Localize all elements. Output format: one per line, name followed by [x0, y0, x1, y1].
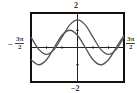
- x-max-label: 3π 2: [126, 36, 135, 51]
- x-min-sign: −: [8, 41, 13, 49]
- x-min-denominator: 2: [15, 44, 24, 51]
- y-max-label: 2: [74, 2, 78, 10]
- y-min-label: −2: [71, 85, 80, 93]
- x-min-label: 3π 2: [15, 36, 24, 51]
- x-max-denominator: 2: [126, 44, 135, 51]
